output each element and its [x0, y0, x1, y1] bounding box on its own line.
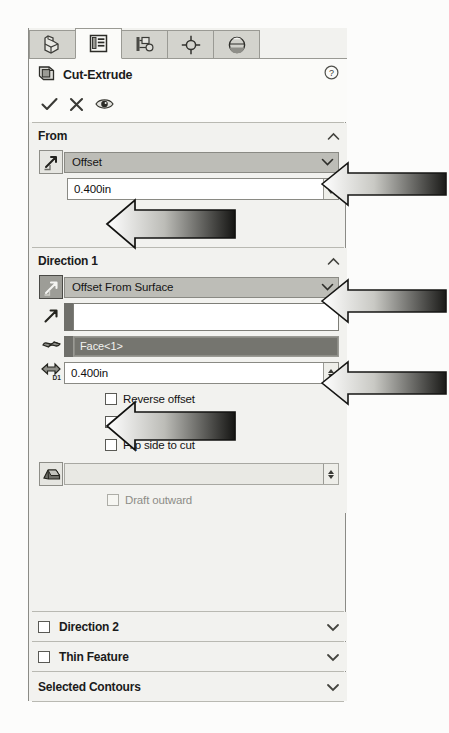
cancel-button[interactable] [69, 97, 84, 116]
section-label-thin-feature: Thin Feature [59, 650, 129, 664]
feature-manager-tab[interactable] [29, 30, 76, 59]
end-condition-value: Offset From Surface [72, 281, 321, 293]
display-manager-tab[interactable] [213, 30, 260, 59]
manager-tab-strip [29, 28, 347, 59]
row-from-offset-distance: 0.400in [29, 176, 347, 202]
section-header-direction2[interactable]: Direction 2 [29, 612, 347, 641]
ok-button[interactable] [41, 97, 58, 116]
dimxpert-manager-tab[interactable] [167, 30, 214, 59]
preview-button[interactable] [95, 97, 114, 115]
svg-text:?: ? [329, 68, 334, 78]
panel-title-row: Cut-Extrude ? [29, 59, 347, 90]
depth-d1-icon-col: D1 [38, 361, 64, 385]
chevron-up-icon[interactable] [327, 252, 340, 270]
reverse-offset-label: Reverse offset [123, 393, 195, 405]
translate-surface-checkbox[interactable] [105, 416, 117, 428]
section-header-selected-contours[interactable]: Selected Contours [29, 672, 347, 701]
reverse-direction-icon[interactable] [39, 275, 63, 299]
section-header-from[interactable]: From [29, 123, 347, 148]
row-draft-angle [29, 456, 347, 488]
property-list-icon [89, 34, 108, 53]
chevron-up-icon[interactable] [327, 127, 340, 145]
section-label-selected-contours: Selected Contours [38, 680, 141, 694]
solid-part-icon [42, 35, 63, 54]
section-label-direction2: Direction 2 [59, 620, 119, 634]
command-row [29, 90, 347, 122]
reverse-offset-checkbox[interactable] [105, 393, 117, 405]
face-selection-stub [64, 336, 73, 357]
spinner-updown-icon[interactable] [323, 464, 338, 484]
direction-vector-icon-col [38, 306, 64, 329]
end-condition-dropdown[interactable]: Offset From Surface [64, 277, 339, 298]
draft-outward-checkbox-row[interactable]: Draft outward [29, 488, 347, 511]
row-start-condition: Offset [29, 148, 347, 176]
property-manager-panel: Cut-Extrude ? [28, 28, 346, 701]
section-body-from: Offset 0.400in [29, 148, 347, 204]
draft-angle-input[interactable] [64, 463, 339, 485]
spinner-updown-icon[interactable] [323, 363, 338, 383]
crosshair-target-icon [181, 35, 201, 55]
start-condition-dropdown[interactable]: Offset [64, 152, 339, 173]
section-label-from: From [38, 129, 67, 143]
page-title: Cut-Extrude [63, 68, 132, 82]
cut-extrude-icon [38, 64, 56, 86]
start-condition-value: Offset [72, 156, 321, 168]
direction2-checkbox[interactable] [38, 621, 50, 633]
translate-surface-checkbox-row[interactable]: Translate surface [29, 410, 347, 433]
section-body-direction1: Offset From Surface [29, 273, 347, 513]
row-face-reference: Face<1> [29, 333, 347, 359]
chevron-down-icon[interactable] [321, 281, 334, 293]
thin-feature-checkbox[interactable] [38, 651, 50, 663]
section-header-thin-feature[interactable]: Thin Feature [29, 642, 347, 671]
help-circle-icon[interactable]: ? [324, 65, 339, 84]
spinner-updown-icon[interactable] [323, 179, 338, 199]
chevron-down-icon[interactable] [326, 648, 340, 666]
screenshot-canvas: Cut-Extrude ? [0, 0, 449, 733]
from-offset-distance-input[interactable]: 0.400in [67, 178, 339, 200]
from-start-condition-icon[interactable] [39, 150, 63, 174]
draft-angle-icon[interactable] [39, 462, 63, 486]
draft-outward-label: Draft outward [125, 494, 192, 506]
configuration-manager-tab[interactable] [121, 30, 168, 59]
row-end-condition: Offset From Surface [29, 273, 347, 301]
reverse-offset-checkbox-row[interactable]: Reverse offset [29, 387, 347, 410]
draft-angle-icon-col [38, 462, 64, 486]
row-depth: D1 0.400in [29, 359, 347, 387]
start-condition-icon-col [38, 150, 64, 174]
divider-bottom [32, 701, 344, 702]
flip-side-to-cut-checkbox-row[interactable]: Flip side to cut [29, 433, 347, 456]
depth-input[interactable]: 0.400in [64, 362, 339, 384]
row-direction-of-extrusion [29, 301, 347, 333]
flip-side-to-cut-label: Flip side to cut [123, 439, 195, 451]
depth-value: 0.400in [65, 367, 323, 379]
appearance-sphere-icon [227, 35, 247, 55]
face-surface-icon-col [38, 335, 64, 357]
tab-strip-filler [259, 30, 347, 59]
translate-surface-label: Translate surface [123, 416, 209, 428]
draft-outward-checkbox[interactable] [107, 494, 119, 506]
direction-vector-icon [42, 306, 61, 329]
from-offset-distance-value: 0.400in [68, 183, 323, 195]
flip-side-to-cut-checkbox[interactable] [105, 439, 117, 451]
section-header-direction1[interactable]: Direction 1 [29, 248, 347, 273]
svg-text:D1: D1 [53, 374, 62, 381]
depth-d1-icon: D1 [40, 361, 62, 385]
direction-of-extrusion-selectionbox[interactable] [73, 303, 339, 331]
direction-selection-stub [64, 303, 73, 331]
face-reference-selectionbox[interactable]: Face<1> [73, 336, 339, 357]
face-surface-icon [41, 335, 62, 357]
chevron-down-icon[interactable] [326, 618, 340, 636]
face-reference-value: Face<1> [80, 340, 123, 352]
property-manager-tab[interactable] [75, 28, 122, 59]
chevron-down-icon[interactable] [321, 156, 334, 168]
section-label-direction1: Direction 1 [38, 254, 98, 268]
end-condition-icon-col [38, 275, 64, 299]
chevron-down-icon[interactable] [326, 678, 340, 696]
configuration-icon [135, 35, 155, 54]
